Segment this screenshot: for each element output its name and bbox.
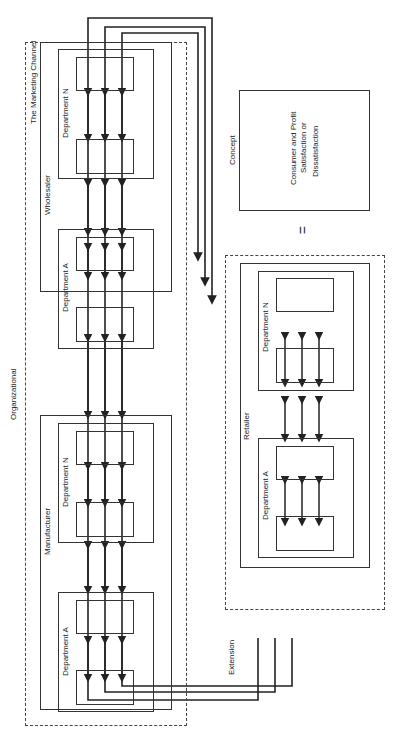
person-n-box: [76, 600, 134, 634]
concept-text: Consumer and Profit: [290, 112, 298, 185]
person-a-box: [76, 139, 134, 174]
wholesaler-label: Wholesaler: [44, 175, 52, 215]
person-a-box: [276, 348, 334, 383]
person-n-box: [276, 278, 334, 312]
dept-label: Department N: [262, 302, 270, 352]
retailer-label: Retailer: [243, 412, 251, 440]
person-n-box: [76, 57, 134, 91]
marketing-channel-diagram: The Marketing Channel Organizational Ext…: [0, 0, 396, 734]
concept-label: Concept: [229, 135, 237, 165]
person-a-box: [76, 307, 134, 342]
equals-sign: =: [294, 226, 310, 234]
person-a-box: [76, 502, 134, 537]
concept-text: Dissatisfaction: [312, 125, 320, 177]
dept-label: Department A: [62, 263, 70, 312]
person-a-box: [276, 516, 334, 551]
dept-label: Department N: [62, 88, 70, 138]
person-a-box: [76, 670, 134, 705]
organizational-label: Organizational: [10, 368, 18, 420]
title: The Marketing Channel: [30, 41, 38, 124]
extension-label: Extension: [228, 640, 236, 675]
concept-text: Satisfaction or: [300, 122, 308, 173]
dept-label: Department A: [262, 471, 270, 520]
dept-label: Department A: [62, 627, 70, 676]
person-n-box: [76, 431, 134, 465]
manufacturer-label: Manufacturer: [44, 508, 52, 555]
person-n-box: [276, 446, 334, 480]
dept-label: Department N: [62, 457, 70, 507]
person-n-box: [76, 237, 134, 271]
